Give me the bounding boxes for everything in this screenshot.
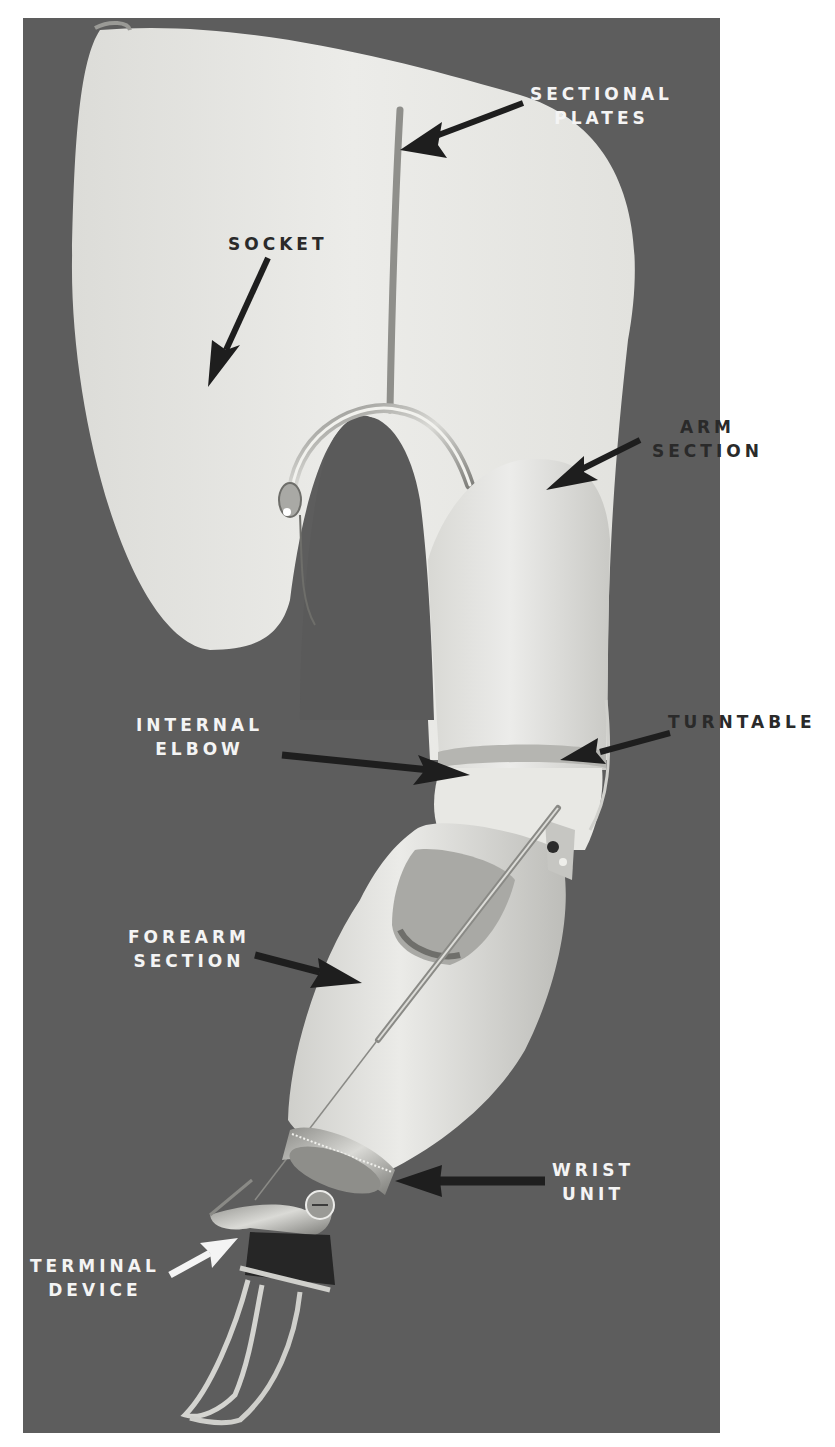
prosthesis-illustration bbox=[23, 18, 720, 1433]
arm-section bbox=[428, 459, 610, 770]
terminal-device bbox=[185, 1180, 335, 1423]
prosthesis-photo bbox=[23, 18, 720, 1433]
